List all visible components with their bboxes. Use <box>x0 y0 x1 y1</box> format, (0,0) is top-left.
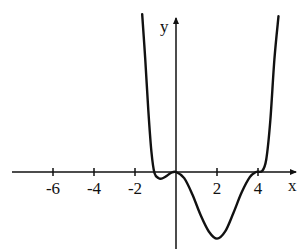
x-tick-label: -2 <box>128 179 142 198</box>
x-tick-label: -6 <box>46 179 60 198</box>
x-tick-label: 2 <box>213 179 222 198</box>
x-tick-label: 4 <box>254 179 263 198</box>
x-axis-tick-labels: -6-4-224 <box>46 179 263 198</box>
function-curve <box>142 14 278 238</box>
function-graph: -6-4-224 x y <box>0 0 308 249</box>
x-tick-label: -4 <box>87 179 102 198</box>
y-axis-label: y <box>160 17 169 36</box>
x-axis-label: x <box>288 176 297 195</box>
